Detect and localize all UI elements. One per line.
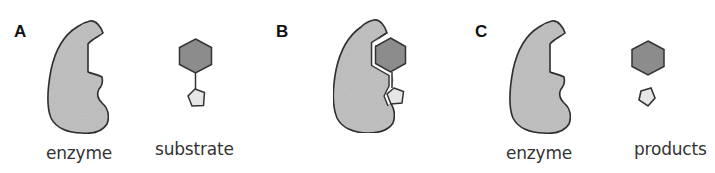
- product-hexagon-c: [632, 41, 664, 75]
- product-pentagon-c: [639, 88, 655, 106]
- substrate-hexagon-b: [376, 38, 406, 72]
- panel-a: [48, 21, 212, 133]
- enzyme-substrate-diagram: A B C enzyme substrate enzyme products: [0, 0, 715, 173]
- enzyme-shape-c: [510, 21, 570, 133]
- caption-enzyme-c: enzyme: [506, 145, 572, 162]
- products-c: [632, 41, 664, 106]
- panel-b: [334, 20, 406, 133]
- substrate-pentagon-a: [188, 89, 205, 106]
- caption-products-c: products: [634, 141, 707, 158]
- caption-enzyme-a: enzyme: [46, 145, 112, 162]
- panel-label-b: B: [276, 23, 288, 40]
- panel-label-a: A: [14, 23, 26, 40]
- enzyme-shape-a: [48, 21, 108, 133]
- caption-substrate-a: substrate: [155, 141, 234, 158]
- panel-label-c: C: [475, 23, 487, 40]
- panel-c: [510, 21, 664, 133]
- substrate-hexagon-a: [180, 39, 212, 73]
- substrate-a: [180, 39, 212, 106]
